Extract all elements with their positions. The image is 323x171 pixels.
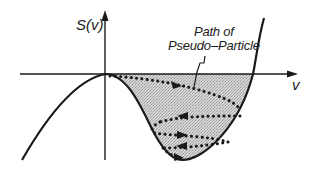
pseudo-particle-annotation: Path of Pseudo–Particle xyxy=(168,25,260,53)
y-axis-label: S(v) xyxy=(76,16,104,33)
diagram-canvas xyxy=(0,0,323,171)
annotation-line-1: Path of xyxy=(168,25,260,39)
x-axis-label: v xyxy=(292,76,300,93)
annotation-line-2: Pseudo–Particle xyxy=(168,39,260,53)
pseudo-particle-diagram: S(v) v Path of Pseudo–Particle xyxy=(0,0,323,171)
